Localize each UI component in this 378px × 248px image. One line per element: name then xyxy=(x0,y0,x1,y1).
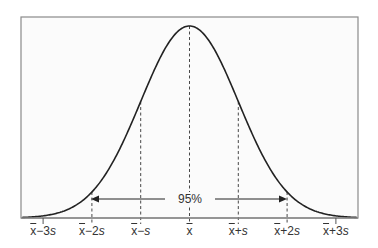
tick-label: x−2s xyxy=(79,224,105,238)
tick-label: x+3s xyxy=(323,224,349,238)
annotation-95-percent: 95% xyxy=(175,192,205,206)
tick-label: x+2s xyxy=(274,224,300,238)
tick-label: x−s xyxy=(131,224,150,238)
tick-label: x−3s xyxy=(30,224,56,238)
tick-label: x+s xyxy=(229,224,248,238)
tick-label: x xyxy=(187,224,193,238)
normal-distribution-chart xyxy=(0,0,378,248)
